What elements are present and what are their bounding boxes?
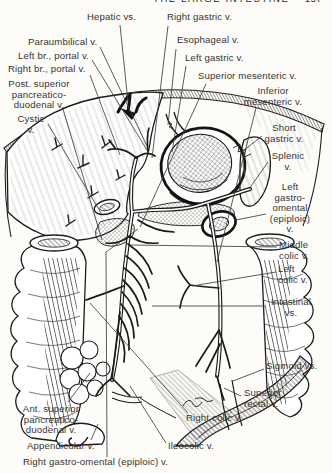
- label-esophageal-vein: Esophageal v.: [177, 35, 239, 46]
- leader-left-gastro-omental: [236, 214, 266, 220]
- label-sigmoid-veins: Sigmoid vs.: [266, 361, 317, 372]
- label-right-gastro-omental-vein: Right gastro-omental (epiploic) v.: [23, 457, 168, 468]
- label-hepatic-veins: Hepatic vs.: [87, 12, 136, 23]
- label-appendicular-vein: Appendicular v.: [27, 441, 95, 452]
- leader-right-colic: [90, 303, 188, 413]
- label-superior-rectal-vein: Superior rectal v.: [244, 388, 281, 409]
- left-colic-vein: [178, 266, 219, 308]
- leader-hepatic-vs: [120, 25, 128, 102]
- label-post-superior-pancreaticoduodenal-vein: Post. superior pancreatico- duodenal v.: [8, 79, 70, 111]
- label-superior-mesenteric-vein: Superior mesenteric v.: [198, 71, 297, 82]
- sigmoid-veins: [196, 330, 230, 372]
- label-ant-superior-pancreaticoduodenal-vein: Ant. superior pancreatico- duodenal v.: [20, 404, 82, 436]
- label-cystic-vein: Cystic v.: [13, 114, 49, 135]
- label-left-gastric-vein: Left gastric v.: [185, 53, 244, 64]
- label-short-gastric-vein: Short gastric v.: [259, 123, 309, 144]
- label-inferior-mesenteric-vein: Inferior mesenteric v.: [238, 86, 308, 107]
- book-page: THE LARGE INTESTINE 157: [0, 0, 332, 473]
- label-left-branch-portal: Left br., portal v.: [18, 51, 89, 62]
- label-ileocolic-vein: Ileocolic v.: [168, 441, 214, 452]
- stomach: [157, 124, 249, 209]
- leader-sigmoid: [233, 369, 264, 381]
- label-splenic-vein: Splenic v.: [264, 151, 312, 172]
- leader-right-gastro-omental: [106, 229, 138, 457]
- label-middle-colic-vein: Middle colic v.: [279, 240, 309, 261]
- leader-superior-rectal: [224, 388, 241, 396]
- right-colic-vein: [86, 286, 124, 300]
- label-right-colic-vein: Right colic v.: [186, 413, 242, 424]
- label-right-gastric-vein: Right gastric v.: [167, 12, 232, 23]
- label-left-gastro-omental-vein: Left gastro- omental (epiploic) v.: [264, 182, 316, 235]
- label-intestinal-veins: Intestinal vs.: [267, 297, 315, 318]
- label-right-branch-portal: Right br., portal v.: [8, 64, 85, 75]
- superior-rectal-vein: [217, 376, 224, 400]
- leader-ileocolic: [130, 386, 166, 443]
- label-paraumbilical-vein: Paraumbilical v.: [28, 37, 97, 48]
- label-left-colic-vein: Left colic v.: [278, 264, 308, 285]
